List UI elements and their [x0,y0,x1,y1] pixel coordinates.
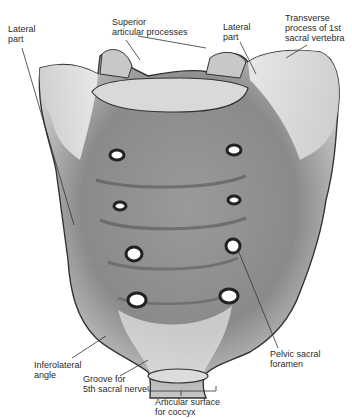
label-inferolateral-angle: Inferolateral angle [34,360,82,380]
left-superior-articular-process [100,50,132,78]
sacrum-diagram: Lateral part Superior articular processe… [0,0,352,419]
label-pelvic-sacral-foramen: Pelvic sacral foramen [270,349,321,369]
label-transverse-process: Transverse process of 1st sacral vertebr… [285,13,345,43]
label-lateral-part-left: Lateral part [8,24,36,44]
label-lateral-part-right: Lateral part [223,22,251,42]
label-superior-articular-processes: Superior articular processes [112,17,188,37]
label-groove-5th-sacral-nerve: Groove for 5th sacral nerve [83,374,147,394]
right-superior-articular-process [206,52,246,78]
label-articular-surface-coccyx: Articular surface for coccyx [155,397,220,417]
